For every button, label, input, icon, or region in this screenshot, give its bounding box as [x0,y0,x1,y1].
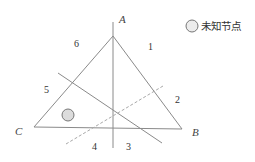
vertex-label-c: C [15,125,23,137]
region-label-3: 3 [126,141,131,152]
dashed-line [66,86,163,144]
legend-label: 未知节点 [201,20,241,32]
region-label-6: 6 [74,38,79,49]
unknown-node [62,109,74,121]
vertex-label-a: A [118,13,126,25]
triangle-abc [34,36,182,129]
triangle-diagram: A B C 1 2 3 4 5 6 未知节点 [0,0,255,162]
legend-node-icon [186,20,198,32]
vertex-label-b: B [192,126,199,138]
region-label-1: 1 [148,41,153,52]
legend: 未知节点 [186,20,241,32]
diagonal-line [58,73,162,143]
region-label-5: 5 [44,84,49,95]
region-label-2: 2 [175,94,180,105]
region-label-4: 4 [92,141,97,152]
